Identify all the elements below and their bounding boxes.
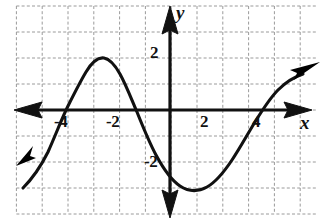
y-tick-label-2: 2: [150, 43, 158, 63]
coordinate-plane-graph: -4 -2 2 4 2 -2 y x: [0, 0, 322, 220]
x-tick-label-2: 2: [200, 112, 208, 132]
x-tick-label-4: 4: [252, 112, 260, 132]
y-axis-label: y: [176, 2, 184, 24]
x-tick-label-minus-4: -4: [54, 112, 67, 132]
graph-canvas: [0, 0, 322, 220]
x-axis-label: x: [300, 112, 310, 134]
x-axis-arrow-left: [14, 102, 42, 118]
x-tick-label-minus-2: -2: [106, 112, 119, 132]
y-tick-label-minus-2: -2: [144, 152, 157, 172]
curve-arrow-left: [16, 146, 36, 166]
